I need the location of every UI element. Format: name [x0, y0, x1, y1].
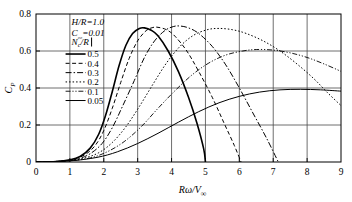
y-tick-label: 0.6	[19, 46, 31, 56]
x-axis-title: Rω/V∞	[178, 184, 207, 198]
y-axis-title: CP	[3, 82, 17, 94]
legend-label-0-05: 0.05	[88, 96, 104, 106]
curve-series-0-4	[36, 27, 241, 162]
x-tick-label: 2	[101, 167, 106, 177]
curve-series-0-1	[36, 49, 341, 162]
x-tick-label: 5	[203, 167, 208, 177]
x-tick-label: 1	[68, 167, 73, 177]
x-tick-label: 9	[339, 167, 344, 177]
y-tick-label: 0.8	[19, 9, 31, 19]
x-tick-label: 3	[135, 167, 140, 177]
x-tick-label: 8	[305, 167, 310, 177]
y-tick-label: 0.4	[19, 83, 31, 93]
x-tick-label: 6	[237, 167, 242, 177]
y-tick-label: 0.2	[19, 120, 31, 130]
x-tick-label: 0	[34, 167, 39, 177]
y-tick-label: 0	[26, 157, 31, 167]
chart-figure: 012345678900.20.40.60.8Rω/V∞CPH/R=1.0C₀₀…	[0, 0, 352, 202]
legend-title: Nc/R	[71, 37, 90, 48]
power-coefficient-chart: 012345678900.20.40.60.8Rω/V∞CPH/R=1.0C₀₀…	[0, 0, 352, 202]
annotation-0: H/R=1.0	[71, 17, 105, 27]
x-tick-label: 7	[271, 167, 276, 177]
curve-series-0-5	[36, 28, 205, 162]
x-tick-label: 4	[169, 167, 174, 177]
